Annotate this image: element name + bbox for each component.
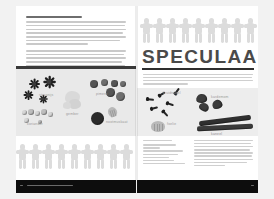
label-steranijs: steranijs <box>39 93 53 97</box>
ginger-root-icon <box>63 102 71 109</box>
paper-doll-chain-right <box>140 18 256 46</box>
label-kaneel: kaneel <box>211 132 222 136</box>
clove-icon <box>162 110 168 116</box>
coriander-seed-icon <box>35 111 40 116</box>
paper-doll-figure <box>153 18 166 44</box>
label-kardemom: kardemom <box>211 95 229 99</box>
coriander-seed-icon <box>48 112 53 117</box>
footer-page-number-right <box>251 185 254 187</box>
footer-right <box>137 180 258 193</box>
mace-icon <box>151 121 165 132</box>
paper-doll-figure <box>81 144 94 170</box>
paper-doll-figure <box>244 18 257 44</box>
paper-doll-figure <box>192 18 205 44</box>
label-foelie: foelie <box>167 122 176 126</box>
coriander-seed-icon <box>28 109 34 115</box>
allspice-berry-icon <box>120 81 126 87</box>
left-page: steranijs koriander gember piment <box>16 6 136 193</box>
coriander-seed-icon <box>22 110 27 115</box>
footer-caption-left <box>27 185 73 187</box>
allspice-berry-icon <box>90 80 98 88</box>
right-page: SPECULAAS kruidnagel kardemom <box>137 6 258 193</box>
title-divider <box>142 68 254 70</box>
paper-doll-figure <box>55 144 68 170</box>
right-spice-photo-panel: kruidnagel kardemom foelie kaneel <box>137 88 258 136</box>
magazine-spread: steranijs koriander gember piment <box>0 0 274 199</box>
paragraph-1 <box>26 21 126 45</box>
label-piment: piment <box>96 92 107 96</box>
recipe-block <box>143 140 253 168</box>
cardamom-pod-icon <box>198 102 210 113</box>
paper-doll-figure <box>231 18 244 44</box>
label-koriander: koriander <box>27 122 43 126</box>
clove-icon <box>147 98 154 101</box>
page-gutter <box>135 6 138 193</box>
cardamom-pod-icon <box>211 98 224 110</box>
paper-doll-figure <box>94 144 107 170</box>
page-title: SPECULAAS <box>142 47 254 66</box>
label-nootmuskaat: nootmuskaat <box>106 120 128 124</box>
nutmeg-icon <box>91 112 104 125</box>
paper-doll-figure <box>166 18 179 44</box>
clove-icon <box>167 102 174 106</box>
allspice-berry-icon <box>111 80 118 87</box>
paper-doll-figure <box>140 18 153 44</box>
nutmeg-icon <box>107 106 119 118</box>
method-column <box>194 140 253 168</box>
coriander-seed-icon <box>41 109 47 115</box>
paper-doll-figure <box>205 18 218 44</box>
left-page-heading <box>26 16 126 18</box>
ingredients-heading <box>143 140 172 141</box>
label-gember: gember <box>66 112 79 116</box>
ingredients-column <box>143 140 187 168</box>
paper-doll-figure <box>42 144 55 170</box>
left-spice-photo-panel: steranijs koriander gember piment <box>16 66 136 136</box>
allspice-berry-icon <box>101 79 108 86</box>
paper-doll-figure <box>68 144 81 170</box>
paper-doll-chain-left <box>16 144 136 178</box>
label-kruidnagel: kruidnagel <box>163 91 181 95</box>
paper-doll-figure <box>218 18 231 44</box>
paper-doll-figure <box>120 144 133 170</box>
panel-top-rule <box>16 66 136 69</box>
footer-page-number-left <box>20 185 23 187</box>
paper-doll-figure <box>16 144 29 170</box>
paper-doll-figure <box>107 144 120 170</box>
footer-left <box>16 180 136 193</box>
clove-icon <box>151 106 158 110</box>
allspice-berry-icon <box>116 92 125 101</box>
paper-doll-figure <box>179 18 192 44</box>
paper-doll-figure <box>29 144 42 170</box>
intro-paragraph <box>143 74 253 86</box>
heading-bar <box>26 16 82 18</box>
